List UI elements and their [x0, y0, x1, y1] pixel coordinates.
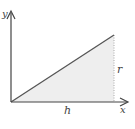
- base-label-h: h: [64, 104, 71, 117]
- triangle-diagram: y x h r: [0, 0, 135, 129]
- y-axis-label: y: [1, 8, 8, 19]
- x-axis-label: x: [120, 104, 126, 115]
- height-label-r: r: [117, 63, 123, 76]
